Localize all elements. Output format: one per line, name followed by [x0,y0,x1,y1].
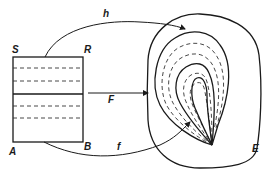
mapping-diagram: S R A B h F f E [0,0,270,176]
label-r: R [84,44,92,55]
label-h: h [103,8,109,19]
target-region-e [147,14,261,168]
label-s: S [12,44,19,55]
label-upper-f: F [108,94,115,105]
label-a: A [8,146,16,157]
source-rectangle [13,57,83,142]
label-lower-f: f [117,141,122,152]
label-e: E [252,143,259,154]
label-b: B [84,141,91,152]
